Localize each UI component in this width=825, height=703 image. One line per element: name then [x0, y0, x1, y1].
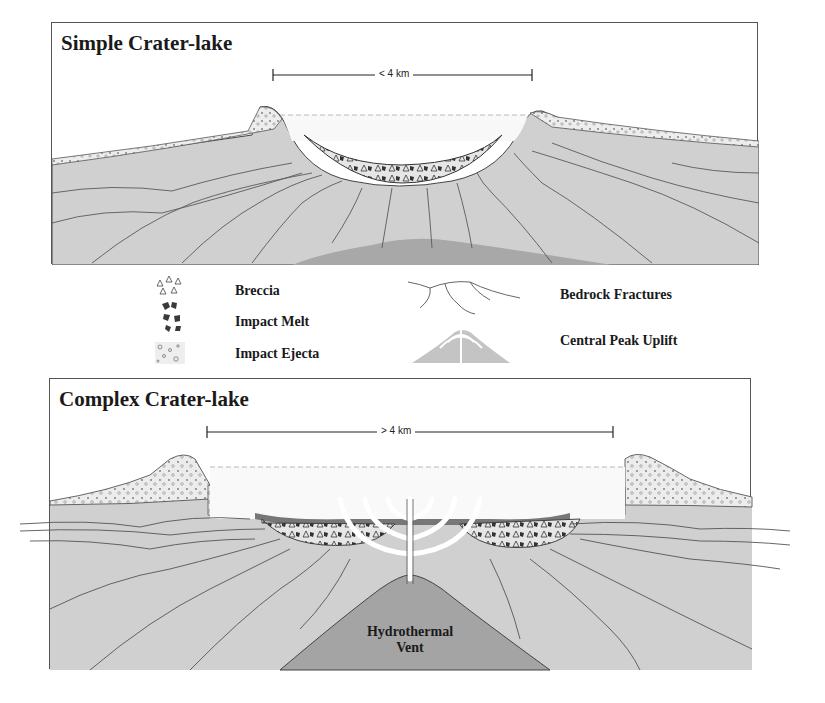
simple-crater-title: Simple Crater-lake	[61, 31, 232, 56]
complex-scale-label: > 4 km	[377, 425, 415, 436]
legend-label-breccia: Breccia	[235, 283, 280, 299]
impact-ejecta-icon	[155, 342, 185, 364]
simple-crater-panel: Simple Crater-lake < 4 km	[51, 22, 758, 264]
complex-crater-panel: Complex Crater-lake > 4 km Hydrothermal …	[49, 378, 751, 669]
legend-label-bedrock-fractures: Bedrock Fractures	[560, 287, 672, 303]
legend: Breccia Impact Melt Impact Ejecta Bedroc…	[140, 270, 720, 375]
simple-scale-label: < 4 km	[375, 68, 413, 79]
central-peak-uplift-icon	[412, 330, 510, 365]
bedrock-fractures-icon	[408, 282, 520, 314]
legend-label-central-peak-uplift: Central Peak Uplift	[560, 333, 677, 349]
hydrothermal-vent-label: Hydrothermal Vent	[355, 624, 465, 656]
impact-melt-icon	[162, 302, 181, 332]
simple-crater-illustration	[52, 23, 759, 265]
vent-label-line1: Hydrothermal	[355, 624, 465, 640]
legend-label-impact-ejecta: Impact Ejecta	[235, 346, 319, 362]
legend-label-impact-melt: Impact Melt	[235, 314, 309, 330]
complex-crater-title: Complex Crater-lake	[59, 387, 249, 412]
vent-label-line2: Vent	[355, 640, 465, 656]
breccia-icon	[157, 276, 181, 294]
